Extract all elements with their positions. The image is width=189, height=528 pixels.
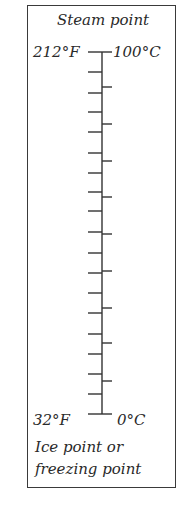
thermometer-scale-diagram: Steam point 212°F 100°C (0, 0, 189, 528)
ice-point-caption-line1: Ice point or (34, 438, 124, 456)
label-32F: 32°F (33, 411, 71, 429)
label-0C: 0°C (117, 411, 146, 429)
ice-point-caption-line2: freezing point (34, 460, 142, 478)
steam-point-title: Steam point (57, 11, 150, 29)
celsius-ticks (102, 87, 112, 381)
label-100C: 100°C (113, 43, 161, 61)
label-212F: 212°F (32, 43, 80, 61)
scale-lines (88, 52, 112, 414)
fahrenheit-ticks (88, 72, 102, 394)
